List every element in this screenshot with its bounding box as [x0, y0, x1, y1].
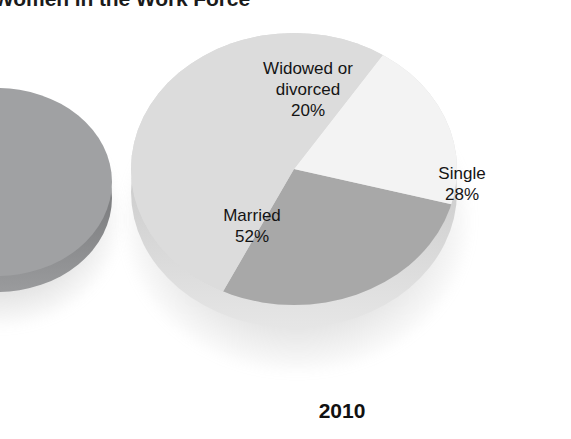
pie-label-widowed-or-divorced: Widowed or divorced 20% [236, 58, 380, 121]
chart-year-caption: 2010 [247, 399, 437, 423]
pie-label-married: Married 52% [185, 205, 319, 247]
secondary-pie-chart [0, 88, 112, 318]
page-title-clip: Women in the Work Force [0, 0, 300, 13]
page-title: Women in the Work Force [0, 0, 250, 11]
pie-label-single: Single 28% [410, 163, 514, 205]
